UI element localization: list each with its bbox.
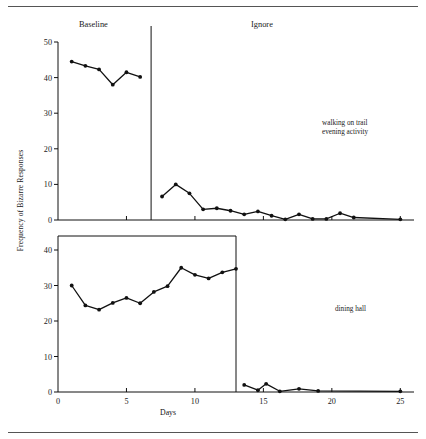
data-point [179,266,183,270]
data-point [297,212,301,216]
y-tick-label: 0 [48,216,52,225]
data-point [220,270,224,274]
data-point [160,195,164,199]
data-point [229,209,233,213]
y-tick-label: 40 [44,74,52,83]
data-point [207,277,211,281]
y-tick-label: 10 [44,180,52,189]
data-point [152,290,156,294]
data-point [70,60,74,64]
y-tick-label: 50 [44,38,52,47]
data-point [125,70,129,74]
series-line-baseline [72,62,140,85]
data-point [83,64,87,68]
panel-0: 01020304050 [44,26,414,225]
data-point [311,217,315,221]
data-point [264,382,268,386]
data-point [234,267,238,271]
data-point [283,217,287,221]
data-point [193,273,197,277]
data-point [138,301,142,305]
data-point [97,68,101,72]
x-tick-label: 15 [259,397,267,406]
y-tick-label: 10 [44,353,52,362]
data-point [352,216,356,220]
data-point [270,214,274,218]
data-point [188,191,192,195]
x-tick-label: 25 [396,397,404,406]
data-point [83,303,87,307]
y-tick-label: 30 [44,282,52,291]
data-point [242,383,246,387]
chart-canvas: 010203040500102030400510152025 [0,0,426,439]
y-tick-label: 0 [48,388,52,397]
data-point [97,308,101,312]
data-point [201,207,205,211]
data-point [316,389,320,393]
data-point [111,83,115,87]
data-point [256,210,260,214]
data-point [398,389,402,393]
data-point [166,284,170,288]
y-tick-label: 20 [44,317,52,326]
x-tick-label: 5 [124,397,128,406]
data-point [256,388,260,392]
data-point [215,206,219,210]
x-tick-label: 10 [191,397,199,406]
data-point [174,183,178,187]
data-point [338,211,342,215]
x-tick-label: 20 [328,397,336,406]
y-tick-label: 40 [44,246,52,255]
data-point [138,75,142,79]
y-tick-label: 30 [44,109,52,118]
series-line-baseline [72,268,236,310]
data-point [125,296,129,300]
x-tick-label: 0 [56,397,60,406]
data-point [297,387,301,391]
data-point [324,217,328,221]
data-point [242,212,246,216]
panel-1: 0102030400510152025 [44,236,414,406]
y-tick-label: 20 [44,145,52,154]
series-line-ignore [162,184,400,219]
data-point [398,217,402,221]
data-point [278,389,282,393]
data-point [70,284,74,288]
data-point [111,301,115,305]
figure-root: Baseline Ignore Frequency of Bizarre Res… [0,0,426,439]
